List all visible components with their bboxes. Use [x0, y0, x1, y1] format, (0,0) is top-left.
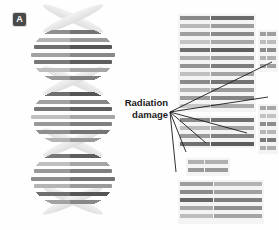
helix-lobe: [31, 150, 115, 208]
segment-left-half: [180, 104, 210, 108]
base-pair-rung: [39, 30, 107, 34]
dna-segment-bar: [180, 182, 262, 186]
segment-left-half: [180, 32, 210, 36]
segment-right-half: [211, 48, 254, 52]
segment-left-half: [180, 88, 210, 92]
dna-segment-bar: [180, 104, 254, 108]
segment-right-half: [267, 114, 276, 118]
segment-left-half: [260, 114, 266, 118]
segment-left-half: [180, 48, 210, 52]
segment-right-half: [267, 32, 276, 36]
segment-left-half: [260, 64, 266, 68]
segment-right-half: [267, 138, 276, 142]
helix-lobe: [31, 88, 115, 146]
dna-segment-bar: [260, 114, 276, 118]
dna-segment-bar: [180, 80, 254, 84]
segment-right-half: [211, 64, 254, 68]
segment-left-half: [260, 48, 266, 52]
dna-segment-bar: [260, 40, 276, 44]
dna-segment-bar: [180, 24, 254, 28]
segment-left-half: [180, 142, 210, 146]
base-pair-rung: [39, 200, 107, 204]
segment-right-half: [214, 190, 262, 194]
segment-right-half: [214, 214, 262, 218]
dna-segment-bar: [180, 118, 254, 122]
base-pair-rung: [39, 138, 107, 142]
fragment-mid-right: [258, 104, 278, 154]
segment-right-half: [211, 88, 254, 92]
segment-right-half: [211, 72, 254, 76]
dna-segment-bar: [180, 142, 254, 146]
dna-segment-bar: [180, 88, 254, 92]
base-pair-rung: [39, 154, 107, 158]
segment-left-half: [180, 206, 213, 210]
base-pair-rung: [36, 100, 110, 104]
base-pair-rung: [34, 45, 112, 49]
dna-segment-bar: [180, 126, 254, 130]
segment-left-half: [180, 72, 210, 76]
segment-left-half: [180, 214, 213, 218]
segment-left-half: [188, 160, 204, 164]
segment-left-half: [180, 126, 210, 130]
dna-segment-bar: [260, 56, 276, 60]
fragment-top-right: [258, 30, 278, 72]
segment-right-half: [211, 80, 254, 84]
segment-right-half: [267, 64, 276, 68]
fragment-lower-short: [186, 158, 230, 176]
segment-left-half: [260, 32, 266, 36]
dna-segment-bar: [260, 138, 276, 142]
base-pair-rung: [36, 192, 110, 196]
segment-left-half: [180, 198, 213, 202]
segment-right-half: [211, 104, 254, 108]
callout-line-2: damage: [132, 109, 168, 120]
base-pair-rung: [39, 92, 107, 96]
segment-right-half: [211, 40, 254, 44]
base-pair-rung: [36, 38, 110, 42]
fragment-top-left: [178, 14, 256, 112]
segment-right-half: [211, 118, 254, 122]
callout-line-1: Radiation: [125, 97, 168, 108]
segment-right-half: [205, 168, 228, 172]
dna-segment-bar: [188, 168, 228, 172]
base-pair-rung: [31, 115, 115, 119]
segment-right-half: [267, 130, 276, 134]
fragment-bottom: [178, 180, 264, 224]
base-pair-rung: [34, 60, 112, 64]
dna-segment-bar: [260, 122, 276, 126]
dna-segment-bar: [260, 64, 276, 68]
segment-left-half: [180, 190, 213, 194]
segment-left-half: [180, 64, 210, 68]
dna-segment-bar: [260, 106, 276, 110]
segment-right-half: [211, 142, 254, 146]
figure-canvas: A B Radiation damage: [0, 0, 279, 230]
fragment-mid-left: [178, 116, 256, 148]
dna-segment-bar: [180, 190, 262, 194]
segment-right-half: [214, 182, 262, 186]
segment-right-half: [267, 146, 276, 150]
segment-left-half: [180, 134, 210, 138]
segment-right-half: [267, 56, 276, 60]
base-pair-rung: [36, 162, 110, 166]
segment-left-half: [260, 130, 266, 134]
dna-segment-bar: [180, 40, 254, 44]
base-pair-rung: [31, 53, 115, 57]
segment-left-half: [260, 106, 266, 110]
segment-left-half: [180, 96, 210, 100]
segment-left-half: [180, 16, 210, 20]
segment-right-half: [211, 134, 254, 138]
base-pair-rung: [36, 130, 110, 134]
dna-segment-bar: [260, 32, 276, 36]
dna-segment-bar: [180, 48, 254, 52]
dna-segment-bar: [260, 48, 276, 52]
dna-segment-bar: [180, 64, 254, 68]
radiation-damage-label: Radiation damage: [110, 97, 168, 120]
segment-left-half: [180, 56, 210, 60]
dna-segment-bar: [260, 130, 276, 134]
dna-segment-bar: [180, 96, 254, 100]
dna-segment-bar: [180, 56, 254, 60]
helix-lobe-mask: [31, 88, 115, 146]
segment-left-half: [260, 40, 266, 44]
segment-left-half: [188, 168, 204, 172]
segment-left-half: [180, 118, 210, 122]
segment-left-half: [180, 40, 210, 44]
